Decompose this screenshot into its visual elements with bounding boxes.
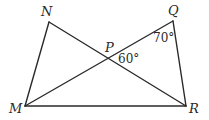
point-label-m: M xyxy=(8,101,23,116)
point-label-p: P xyxy=(104,40,114,55)
geometry-diagram: N Q P M R 70° 60° xyxy=(0,0,209,120)
angle-label-q: 70° xyxy=(153,31,174,45)
diagram-canvas: N Q P M R 70° 60° xyxy=(0,0,209,120)
point-label-r: R xyxy=(188,101,199,116)
segment-mq xyxy=(25,21,173,106)
segment-mn xyxy=(25,22,49,106)
angle-label-p: 60° xyxy=(118,52,139,66)
point-label-n: N xyxy=(40,4,53,19)
point-label-q: Q xyxy=(168,3,179,18)
segment-qr xyxy=(173,21,186,106)
